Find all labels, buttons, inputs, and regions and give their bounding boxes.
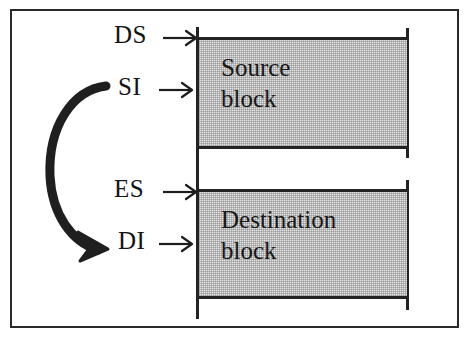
right-arrow-icon-es xyxy=(162,181,200,203)
destination-block-label: Destination block xyxy=(221,204,336,266)
source-block-line1: Source xyxy=(221,54,290,81)
memory-block-diagram: DS SI ES DI Source block Destination blo… xyxy=(0,0,470,338)
destination-block: Destination block xyxy=(199,189,407,299)
source-block-label: Source block xyxy=(221,52,290,114)
destination-block-line2: block xyxy=(221,235,336,266)
destination-block-line1: Destination xyxy=(221,206,336,233)
right-arrow-icon-di xyxy=(158,233,196,255)
register-label-ds: DS xyxy=(114,22,147,47)
source-block-line2: block xyxy=(221,83,290,114)
right-arrow-icon-ds xyxy=(162,27,200,49)
right-arrow-icon-si xyxy=(158,79,196,101)
curved-arrow-icon xyxy=(34,72,144,267)
source-block: Source block xyxy=(199,37,407,149)
